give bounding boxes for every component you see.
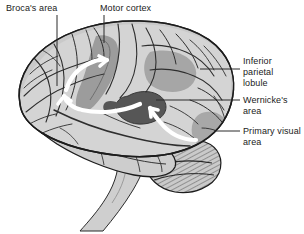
label-brocas-area: Broca's area [6, 3, 57, 14]
label-wernickes-area: Wernicke's area [243, 95, 304, 117]
brain-illustration [0, 0, 304, 234]
label-primary-visual-area: Primary visual area [243, 126, 301, 148]
label-inferior-parietal-lobule: Inferior parietal lobule [243, 56, 304, 89]
brain-diagram-figure: Broca's area Motor cortex Inferior parie… [0, 0, 304, 234]
cerebral-cortex [19, 21, 233, 157]
label-motor-cortex: Motor cortex [100, 3, 151, 14]
primary-visual-region [192, 112, 228, 149]
